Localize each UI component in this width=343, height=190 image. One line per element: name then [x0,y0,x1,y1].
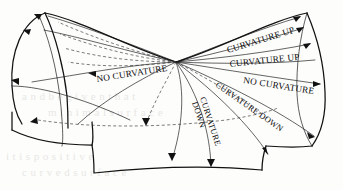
arrowhead-up-3 [303,43,311,49]
arrowhead-left-down [30,117,38,124]
arrowhead-left-up-2 [23,29,31,35]
bleed-line-3: i t i s p o s i t i v e [6,150,94,162]
bleed-line-4: c u r v e d s u r f a c e [22,166,127,178]
label-curvature-up-2: CURVATURE UP [229,52,300,69]
arrowhead-down-4 [168,153,176,161]
curvature-figure: a n d b e g i v e n t h a t m i n i m a … [0,0,343,190]
lower-right-boundary [266,146,312,147]
label-curvature-up-1: CURVATURE UP [226,25,296,55]
arrowhead-down-2 [262,147,268,155]
bleed-line-2: m i n i m a l s u r f a c e [48,106,163,118]
arrowhead-hidden-down [142,118,150,126]
arrowhead-up-1 [293,16,301,22]
lower-left-boundary [12,130,92,145]
section-down-4 [172,62,182,160]
arrowhead-down-3 [207,159,215,167]
saddle-surface-diagram: a n d b e g i v e n t h a t m i n i m a … [0,0,343,190]
label-no-curvature-left: NO CURVATURE [96,63,169,84]
label-curvature-down-vertical: CURVATURE DOWN [190,96,223,150]
label-no-curvature-right: NO CURVATURE [243,75,316,96]
page-bleed-text: a n d b e g i v e n t h a t m i n i m a … [6,90,163,178]
bleed-line-1: a n d b e g i v e n t h a t [22,90,136,102]
right-crest-fold [307,13,325,146]
interior-contour-left [40,18,63,146]
